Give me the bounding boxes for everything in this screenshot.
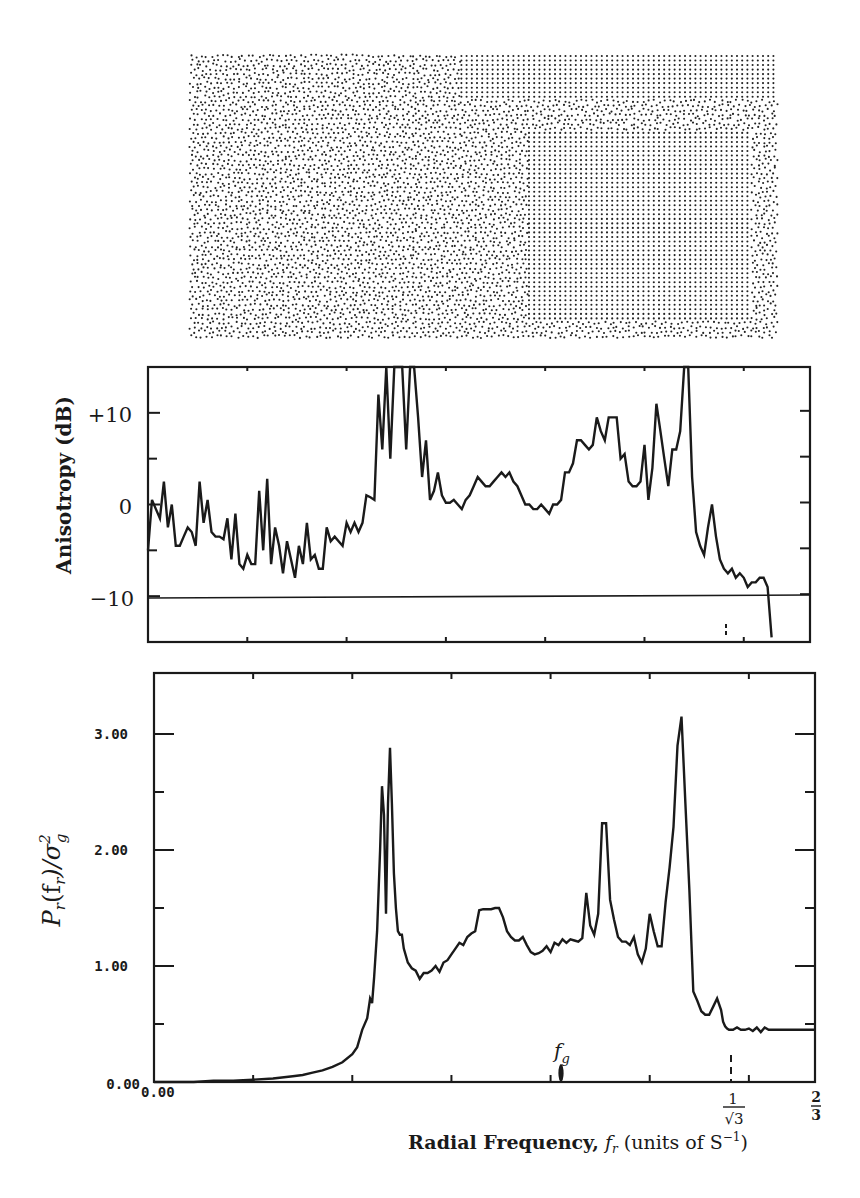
fg-arrow-icon [558,1064,563,1082]
fg-label: fg [552,1039,570,1066]
two-thirds-xtick-label: 2 3 [811,1089,821,1123]
minus-10-db-reference-line [148,595,810,598]
power-ylabel: Pr(fr)/σ2g [36,834,70,928]
ytick-label-0: 0 [119,495,132,519]
inv-sqrt3-denominator: √3 [724,1110,743,1128]
ytick-label-2: 2.00 [94,842,128,858]
x-axis-label: Radial Frequency, fr (units of S−1) [408,1130,748,1157]
ytick-label-0: 0.00 [106,1076,140,1092]
two-thirds-numerator: 2 [811,1089,821,1105]
inv-sqrt3-xtick-label: 1 √3 [723,1090,745,1128]
inv-sqrt3-numerator: 1 [728,1090,738,1108]
xtick-label-origin: 0.00 [141,1084,175,1100]
fg-marker: fg [552,1039,570,1082]
anisotropy-panel: +10 0 −10 Anisotropy (dB) [52,367,810,642]
power-spectrum-panel: 3.00 2.00 1.00 0.00 0.00 fg 1 √3 2 3 Pr(… [36,673,821,1128]
anisotropy-axes-frame [148,367,810,642]
ytick-label-3: 3.00 [94,726,128,742]
ytick-label-plus10: +10 [88,403,132,427]
ytick-label-minus10: −10 [90,587,134,611]
point-distribution-pattern [188,53,778,339]
anisotropy-ylabel: Anisotropy (dB) [52,396,76,575]
anisotropy-ticks [148,367,810,642]
power-axes-frame [154,673,815,1082]
figure: +10 0 −10 Anisotropy (dB) 3.00 2.00 1.00… [0,0,860,1198]
two-thirds-denominator: 3 [811,1107,821,1123]
ytick-label-1: 1.00 [94,958,128,974]
power-ticks [154,673,815,1082]
power-spectrum-curve [154,717,815,1082]
